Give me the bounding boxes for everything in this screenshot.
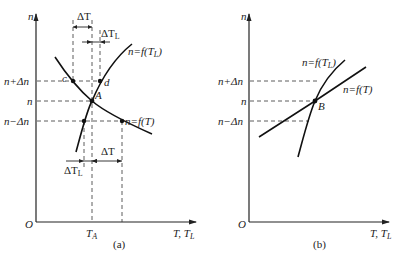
- label-top-dTL: ΔTL: [101, 27, 120, 41]
- point-lower-right: [120, 119, 124, 123]
- curve-label-f-T: n=f(T): [125, 115, 155, 128]
- point-B: [313, 99, 318, 104]
- point-c: [71, 79, 75, 83]
- point-lower-left: [82, 119, 86, 123]
- diagram-canvas: ΔT ΔTL ΔTL ΔT n O T, TL TA (a) n+Δn n n−…: [0, 0, 405, 258]
- point-A: [90, 99, 95, 104]
- ytick-b-n-minus: n−Δn: [218, 115, 243, 127]
- ytick-n-plus: n+Δn: [4, 75, 29, 87]
- origin-label-b: O: [238, 218, 246, 230]
- panel-b: B n O T, TL (b) n+Δn n n−Δn n=f(TL) n=f(…: [218, 10, 392, 251]
- x-axis-label: T, TL: [173, 227, 195, 241]
- y-axis-label-b: n: [241, 10, 247, 22]
- label-c: c: [62, 72, 67, 84]
- label-bottom-dTL: ΔTL: [64, 164, 83, 178]
- curve-b-f-T: [259, 67, 366, 137]
- caption-a: (a): [113, 238, 126, 251]
- ytick-n: n: [27, 95, 33, 107]
- x-tick-TA: TA: [86, 227, 97, 241]
- point-d: [98, 79, 102, 83]
- label-d: d: [104, 76, 110, 88]
- curve-label-f-TL: n=f(TL): [128, 45, 162, 59]
- y-axis-label: n: [28, 10, 34, 22]
- panel-a: ΔT ΔTL ΔTL ΔT n O T, TL TA (a) n+Δn n n−…: [4, 10, 196, 251]
- ytick-b-n: n: [241, 95, 247, 107]
- caption-b: (b): [313, 238, 326, 251]
- ytick-n-minus: n−Δn: [4, 115, 29, 127]
- label-bottom-dT: ΔT: [101, 145, 115, 157]
- origin-label: O: [25, 218, 33, 230]
- label-B: B: [318, 100, 325, 112]
- curve-label-b-f-T: n=f(T): [343, 83, 373, 96]
- label-top-dT: ΔT: [77, 10, 91, 22]
- ytick-b-n-plus: n+Δn: [218, 75, 243, 87]
- x-axis-label-b: T, TL: [370, 227, 392, 241]
- curve-label-b-f-TL: n=f(TL): [302, 56, 336, 70]
- label-A: A: [94, 89, 102, 101]
